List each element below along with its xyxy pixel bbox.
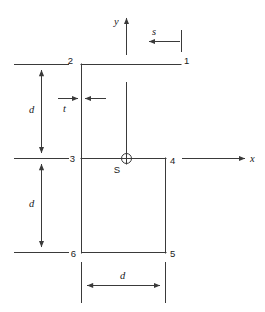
corner-label-5: 5	[170, 248, 175, 259]
y-axis-label: y	[113, 16, 119, 27]
d-lower-dimension	[14, 164, 69, 253]
d-bottom-dimension	[82, 262, 166, 303]
figure-canvas: 2 1 3 4 5 6 y x S s	[0, 0, 265, 312]
s-dimension-label: s	[152, 26, 156, 37]
shear-center-label: S	[114, 164, 120, 175]
corner-label-4: 4	[170, 155, 175, 166]
corner-label-3: 3	[70, 153, 75, 164]
d-upper-label: d	[29, 104, 35, 115]
x-axis-label: x	[249, 153, 255, 164]
corner-label-1: 1	[184, 55, 189, 66]
d-upper-dimension	[14, 65, 69, 159]
shear-center-symbol	[121, 153, 133, 165]
corner-label-6: 6	[71, 248, 76, 259]
t-dimension-label: t	[63, 103, 67, 114]
d-bottom-label: d	[120, 270, 126, 281]
d-lower-label: d	[29, 198, 35, 209]
cross-section-diagram: 2 1 3 4 5 6 y x S s	[0, 0, 265, 312]
